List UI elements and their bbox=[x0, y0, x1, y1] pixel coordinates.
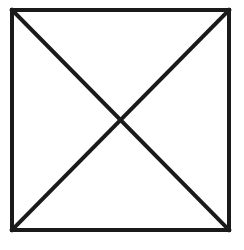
square-with-diagonals-diagram bbox=[0, 0, 244, 250]
